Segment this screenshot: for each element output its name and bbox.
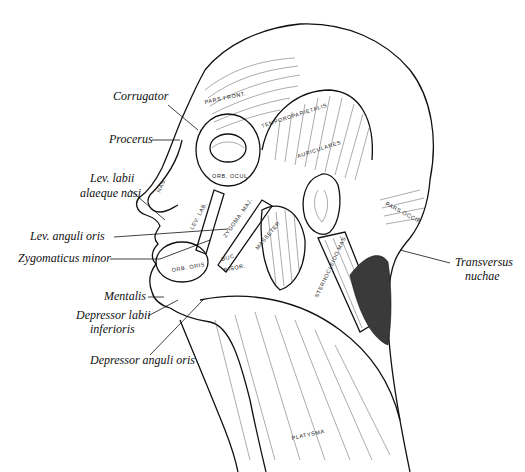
- levator-labii: [196, 190, 224, 254]
- inscription-pars-front: PARS FRONT.: [204, 90, 247, 105]
- inscription-platysma: PLATYSMA: [291, 428, 325, 441]
- leader-corrugator: [168, 105, 198, 130]
- neck-back-outline: [388, 238, 410, 472]
- leader-lines: [110, 105, 450, 355]
- nose: [148, 140, 182, 212]
- ear: [303, 174, 340, 234]
- inscription-pars-occip: PARS OCCIP.: [385, 201, 424, 226]
- label-lev-labii-2: alaeque nasi: [80, 186, 141, 200]
- label-corrugator: Corrugator: [113, 89, 169, 103]
- figure-labels: Corrugator Procerus Lev. labii alaeque n…: [18, 89, 513, 367]
- leader-depressor-labii: [148, 300, 178, 316]
- posterior-triangle: [350, 256, 391, 345]
- label-lev-anguli: Lev. anguli oris: [29, 229, 105, 243]
- leader-depressor-anguli: [150, 300, 203, 355]
- label-procerus: Procerus: [108, 132, 153, 146]
- leader-transversus-nuchae: [400, 250, 450, 263]
- leader-zygomaticus-minor: [110, 240, 210, 259]
- inscription-orb-ocul: ORB. OCUL.: [212, 173, 250, 179]
- inscription-orb-oris: ORB. ORIS: [171, 261, 205, 273]
- label-zygomaticus-minor: Zygomaticus minor: [18, 251, 111, 265]
- label-depressor-labii-2: inferioris: [90, 322, 135, 336]
- masseter-fibers: [268, 210, 299, 286]
- eye: [210, 134, 246, 162]
- ear-inner: [315, 190, 328, 222]
- eye-lid: [212, 142, 244, 148]
- label-mentalis: Mentalis: [103, 289, 146, 303]
- anatomy-figure: PARS FRONT. TEMPOROPARIETALIS ORB. OCUL.…: [0, 0, 525, 472]
- inscription-auriculares: AURICULARES: [296, 139, 341, 159]
- inscription-zygoma-maj: ZYGOMA. MAJ.: [222, 197, 254, 239]
- neck-front-outline: [180, 320, 238, 472]
- label-transversus-nuchae-2: nuchae: [465, 269, 500, 283]
- inscription-nas: NAS.: [155, 177, 167, 193]
- inscription-lev-lab: LEV. LAB.: [189, 201, 209, 231]
- inscription-temporoparietalis: TEMPOROPARIETALIS: [260, 102, 327, 129]
- inscription-risor: RISOR.: [223, 262, 246, 273]
- label-depressor-anguli: Depressor anguli oris: [89, 353, 195, 367]
- inscription-sternocleido: STERNOCLEIDO MAS.: [313, 234, 347, 299]
- face-profile: [137, 70, 205, 308]
- label-lev-labii-1: Lev. labii: [89, 171, 134, 185]
- inscription-masseter: MASSETER: [254, 220, 281, 251]
- label-depressor-labii-1: Depressor labii: [75, 308, 151, 322]
- head-muscles-illustration: PARS FRONT. TEMPOROPARIETALIS ORB. OCUL.…: [0, 0, 525, 472]
- label-transversus-nuchae-1: Transversus: [455, 255, 513, 269]
